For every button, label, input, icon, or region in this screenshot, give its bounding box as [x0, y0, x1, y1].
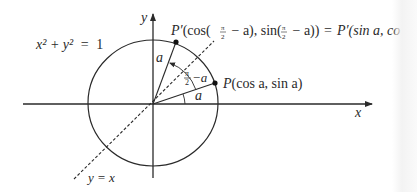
svg-text:2: 2 — [185, 78, 189, 87]
svg-text:− a), sin(: − a), sin( — [228, 23, 282, 39]
svg-text:2: 2 — [282, 33, 286, 41]
point-P-label: P(cos a, sin a) — [222, 76, 303, 92]
radius-OP — [153, 83, 215, 104]
unit-circle-diagram: x² + y² = 1 y x y = x a a π 2 −a P(cos a… — [0, 0, 417, 192]
angle-label-a-upper: a — [156, 50, 163, 65]
svg-text:π: π — [185, 69, 189, 78]
svg-text:=: = — [324, 23, 332, 38]
svg-text:P′(sin a, co: P′(sin a, co — [336, 23, 400, 39]
svg-text:− a)): − a)) — [289, 23, 320, 39]
angle-a-arc — [183, 94, 185, 104]
svg-text:2: 2 — [221, 33, 225, 41]
angle-label-complement: π 2 −a — [184, 69, 208, 87]
circle-equation: x² + y² = 1 — [35, 37, 103, 52]
point-P-prime-label: P′(cos( π 2 − a), sin( π 2 − a)) = P′(si… — [170, 23, 400, 41]
line-y-equals-x — [74, 41, 214, 179]
svg-text:−a: −a — [192, 70, 208, 85]
svg-text:π: π — [282, 24, 286, 32]
svg-text:P′(cos(: P′(cos( — [170, 23, 211, 39]
line-label: y = x — [86, 170, 115, 185]
angle-label-a-lower: a — [195, 88, 202, 103]
y-axis-label: y — [139, 10, 148, 25]
page-edge-shadow — [392, 0, 417, 192]
svg-text:π: π — [221, 24, 225, 32]
point-P — [212, 80, 217, 85]
point-P-prime — [173, 39, 178, 44]
x-axis-label: x — [354, 105, 362, 120]
